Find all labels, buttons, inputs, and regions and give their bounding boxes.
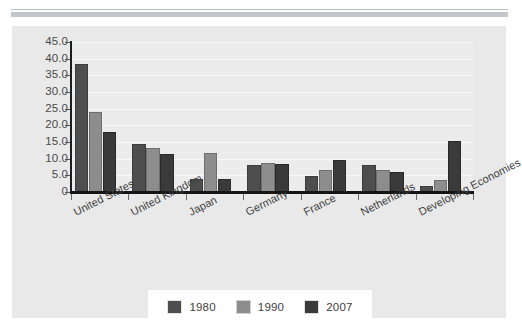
legend-item-2007[interactable]: 2007 [304, 300, 352, 314]
gridline [71, 75, 473, 76]
legend-swatch-1990 [236, 300, 251, 314]
top-decorative-rules [11, 9, 508, 17]
gridline [71, 125, 473, 126]
legend-label-1990: 1990 [258, 301, 284, 313]
x-axis-tick [473, 194, 474, 200]
gridline [71, 42, 473, 43]
x-axis-category-labels: United StatesUnited KingdomJapanGermanyF… [71, 196, 473, 291]
y-axis-tick-label: 5.0 [16, 169, 68, 181]
plot-area [71, 42, 473, 192]
gridline [71, 159, 473, 160]
legend-item-1990[interactable]: 1990 [236, 300, 284, 314]
bar-1980-germany [247, 165, 261, 192]
y-axis-tick-label: 30.0 [16, 86, 68, 98]
bar-1990-france [319, 170, 333, 192]
gridline [71, 142, 473, 143]
bar-1990-germany [261, 163, 275, 192]
y-axis-labels: 45.040.035.030.025.020.015.010.05.00 [12, 26, 68, 226]
bar-1990-united-kingdom [146, 148, 160, 192]
bar-2007-france [333, 160, 347, 192]
gridline [71, 109, 473, 110]
bar-1990-united-states [89, 112, 103, 192]
y-axis-tick-label: 10.0 [16, 153, 68, 165]
y-axis-tick-label: 45.0 [16, 36, 68, 48]
chart-legend: 198019902007 [148, 290, 372, 323]
x-axis-label-france: France [302, 192, 338, 217]
bar-1980-netherlands [362, 165, 376, 192]
legend-swatch-2007 [304, 300, 319, 314]
y-axis-tick-label: 15.0 [16, 136, 68, 148]
chart-panel: 45.040.035.030.025.020.015.010.05.00 Uni… [12, 26, 506, 318]
rule-thick-band [11, 12, 508, 17]
legend-swatch-1980 [167, 300, 182, 314]
y-axis-tick-label: 40.0 [16, 53, 68, 65]
bar-1990-japan [204, 153, 218, 192]
bar-1980-france [305, 176, 319, 192]
y-axis-tick-label: 35.0 [16, 69, 68, 81]
bar-2007-united-states [103, 132, 117, 192]
legend-label-1980: 1980 [189, 301, 215, 313]
gridline [71, 59, 473, 60]
legend-label-2007: 2007 [326, 301, 352, 313]
bar-1980-united-states [75, 64, 89, 192]
bar-1990-netherlands [376, 170, 390, 192]
y-axis-line [70, 41, 72, 193]
y-axis-tick-label: 20.0 [16, 119, 68, 131]
legend-item-1980[interactable]: 1980 [167, 300, 215, 314]
y-axis-tick-label: 0 [16, 186, 68, 198]
y-axis-tick-label: 25.0 [16, 103, 68, 115]
gridline [71, 92, 473, 93]
x-axis-label-japan: Japan [187, 194, 219, 217]
